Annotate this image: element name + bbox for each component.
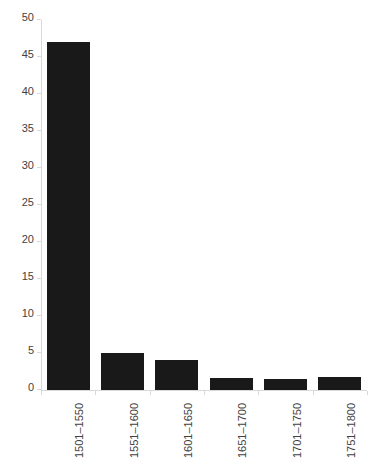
x-axis-tick-mark — [313, 391, 314, 395]
y-axis-tick-label: 25 — [22, 197, 34, 208]
x-axis-tick-mark — [150, 391, 151, 395]
x-axis-tick-mark — [258, 391, 259, 395]
bar — [318, 377, 361, 390]
x-axis-tick-mark — [41, 391, 42, 395]
bar-chart: 05101520253035404550 1501–15501551–16001… — [0, 0, 377, 465]
x-axis-label-text: 1651–1700 — [236, 403, 248, 458]
x-axis-tick-mark — [95, 391, 96, 395]
x-axis-tick-mark — [367, 391, 368, 395]
y-axis-tick-label: 0 — [28, 382, 34, 393]
y-axis-tick-label: 45 — [22, 49, 34, 60]
y-axis-tick-label: 5 — [28, 345, 34, 356]
y-axis-tick-label: 15 — [22, 271, 34, 282]
x-axis-label-text: 1501–1550 — [73, 403, 85, 458]
y-axis-tick-label: 35 — [22, 123, 34, 134]
x-axis-label-text: 1701–1750 — [291, 403, 303, 458]
x-axis-label-text: 1601–1650 — [182, 403, 194, 458]
y-axis-tick-label: 10 — [22, 308, 34, 319]
y-axis-tick-label: 30 — [22, 160, 34, 171]
y-axis-tick-label: 20 — [22, 234, 34, 245]
bar — [155, 360, 198, 390]
bar — [47, 42, 90, 390]
x-axis-label-text: 1551–1600 — [128, 403, 140, 458]
bar — [101, 353, 144, 390]
bar — [210, 378, 253, 390]
x-axis-label-text: 1751–1800 — [345, 403, 357, 458]
x-axis-tick-mark — [204, 391, 205, 395]
y-axis-tick-label: 40 — [22, 86, 34, 97]
plot-area — [41, 20, 367, 390]
bar — [264, 379, 307, 390]
y-axis-tick-label: 50 — [22, 12, 34, 23]
